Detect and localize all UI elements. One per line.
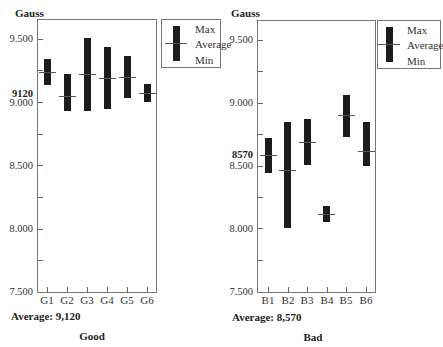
y-tick-label: 7.500 (0, 286, 33, 298)
x-tick-label: B4 (317, 294, 337, 306)
x-tick-label: B1 (258, 294, 278, 306)
range-bar-b2 (284, 122, 291, 228)
x-tick-label: B3 (297, 294, 317, 306)
average-marker (139, 93, 156, 94)
range-bar-b5 (343, 95, 350, 137)
y-tick (38, 197, 43, 198)
y-tick-label: 9.500 (213, 34, 253, 46)
y-axis-title: Gauss (15, 7, 44, 19)
y-tick-label: 9.000 (213, 97, 253, 109)
y-tick (258, 134, 263, 135)
x-tick-label: B2 (278, 294, 298, 306)
average-marker (260, 155, 277, 156)
average-marker (59, 96, 76, 97)
average-summary: Average: 9,120 (11, 310, 80, 322)
average-marker (338, 115, 355, 116)
y-tick (258, 103, 263, 104)
y-tick-label: 7.500 (213, 286, 253, 298)
x-tick (67, 287, 68, 292)
chart-title: Good (52, 330, 132, 342)
reference-average-label: 9120 (0, 88, 33, 100)
y-tick (258, 166, 263, 167)
chart-good: Gauss 9.500 9.000 9120 8.500 8.000 7.500… (0, 0, 220, 347)
plot-area (37, 19, 157, 293)
y-tick (258, 260, 263, 261)
y-tick (38, 70, 43, 71)
x-tick-label: G5 (117, 294, 137, 306)
y-tick (258, 197, 263, 198)
y-tick-label: 9.500 (0, 33, 33, 45)
average-marker (318, 214, 335, 215)
x-tick (366, 287, 367, 292)
y-tick (38, 102, 43, 103)
x-tick (107, 287, 108, 292)
x-tick (147, 287, 148, 292)
x-tick (288, 287, 289, 292)
legend-average-label: Average (407, 39, 443, 51)
y-tick (38, 229, 43, 230)
legend: Max Average Min (161, 19, 221, 68)
x-tick-label: B6 (356, 294, 376, 306)
average-marker (358, 151, 375, 152)
average-marker (279, 170, 296, 171)
y-tick (258, 40, 263, 41)
y-tick-label: 8.500 (213, 160, 253, 172)
average-marker (299, 142, 316, 143)
legend: Max Average Min (377, 20, 441, 69)
y-tick-label: 8.000 (213, 223, 253, 235)
x-tick-label: G1 (37, 294, 57, 306)
y-tick (38, 260, 43, 261)
x-tick (327, 287, 328, 292)
average-marker (79, 74, 96, 75)
y-tick (38, 134, 43, 135)
x-tick-label: G3 (77, 294, 97, 306)
x-tick (87, 287, 88, 292)
average-marker (119, 77, 136, 78)
average-marker (99, 78, 116, 79)
legend-max-label: Max (407, 24, 427, 36)
legend-min-label: Min (195, 54, 213, 66)
y-tick (258, 71, 263, 72)
y-axis-title: Gauss (231, 7, 260, 19)
x-tick (127, 287, 128, 292)
x-tick (346, 287, 347, 292)
y-tick (258, 228, 263, 229)
x-tick-label: B5 (336, 294, 356, 306)
range-bar-b6 (363, 122, 370, 166)
range-bar-g2 (64, 74, 71, 111)
x-tick (268, 287, 269, 292)
x-tick-label: G6 (137, 294, 157, 306)
average-summary: Average: 8,570 (232, 311, 301, 323)
legend-average-line-icon (165, 43, 187, 44)
plot-area (257, 20, 376, 293)
y-tick-label: 8.000 (0, 223, 33, 235)
x-tick (47, 287, 48, 292)
legend-average-line-icon (378, 44, 400, 45)
average-marker (39, 72, 56, 73)
x-tick-label: G4 (97, 294, 117, 306)
y-tick (38, 39, 43, 40)
chart-title: Bad (273, 331, 353, 343)
x-tick (307, 287, 308, 292)
x-tick-label: G2 (57, 294, 77, 306)
legend-min-label: Min (407, 55, 425, 67)
y-tick-label: 8.500 (0, 160, 33, 172)
y-tick (38, 165, 43, 166)
chart-bad: Gauss 9.500 9.000 8570 8.500 8.000 7.500… (220, 0, 440, 347)
